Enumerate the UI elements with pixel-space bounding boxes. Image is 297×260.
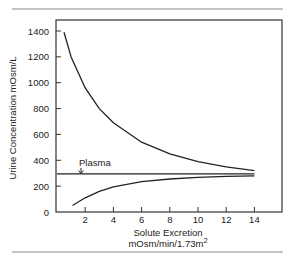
series-line	[64, 32, 254, 170]
x-axis-units: mOsm/min/1.73m2	[128, 236, 207, 249]
x-axis-label: Solute Excretion	[133, 227, 202, 238]
y-tick-label: 1400	[28, 26, 49, 37]
plasma-label: Plasma	[79, 157, 111, 168]
plot-frame	[56, 20, 282, 212]
plasma-arrow-icon	[79, 168, 84, 174]
y-axis-label: Urine Concentration mOsm/L	[7, 56, 18, 179]
x-tick-label: 12	[221, 214, 232, 225]
y-tick-label: 800	[33, 103, 49, 114]
x-tick-label: 14	[249, 214, 260, 225]
y-tick-label: 200	[33, 181, 49, 192]
series-line	[73, 176, 255, 206]
y-tick-label: 400	[33, 155, 49, 166]
y-tick-label: 0	[44, 207, 49, 218]
y-tick-label: 600	[33, 129, 49, 140]
y-tick-label: 1000	[28, 77, 49, 88]
x-axis: 2468101214	[83, 207, 260, 225]
x-tick-label: 10	[193, 214, 204, 225]
x-tick-label: 4	[111, 214, 116, 225]
x-tick-label: 6	[139, 214, 144, 225]
x-tick-label: 2	[83, 214, 88, 225]
x-tick-label: 8	[167, 214, 172, 225]
series	[57, 32, 254, 205]
chart: 0200400600800100012001400 2468101214 Pla…	[0, 0, 297, 260]
y-tick-label: 1200	[28, 51, 49, 62]
